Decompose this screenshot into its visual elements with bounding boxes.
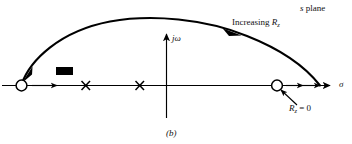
s-plane-label-rest: plane [304, 3, 326, 13]
real-axis-label: σ [339, 80, 343, 89]
root-locus-figure: s plane Increasing Rz jω σ Rz = 0 (b) [0, 0, 352, 144]
rz-zero-value: = 0 [297, 103, 311, 113]
zero-marker-right [272, 80, 283, 91]
imaginary-axis-label: jω [172, 34, 181, 43]
root-locus-plot [0, 0, 352, 144]
s-plane-label: s plane [300, 4, 325, 13]
rz-equals-zero-label: Rz = 0 [289, 104, 311, 115]
increasing-rz-label: Increasing Rz [232, 18, 280, 29]
redaction-block [56, 67, 73, 75]
zero-marker-left [16, 80, 27, 91]
increasing-rz-prefix: Increasing [232, 17, 272, 27]
increasing-rz-subscript: z [277, 21, 280, 28]
figure-caption: (b) [166, 129, 177, 138]
